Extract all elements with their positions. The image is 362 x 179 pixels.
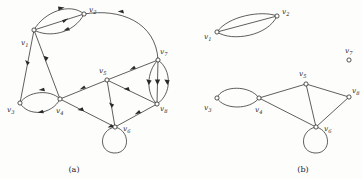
edge-v2-v7-long-arc (84, 13, 158, 60)
vertex-a-v5[interactable] (105, 78, 109, 82)
edge-v2-v1-straight (34, 14, 84, 30)
vertex-a-v1[interactable] (32, 28, 36, 32)
vertex-a-v3[interactable] (18, 101, 22, 105)
edge-v4-v6 (60, 99, 115, 127)
vertex-b-v5[interactable] (304, 82, 308, 86)
vertex-label-b-v1: v1 (204, 32, 212, 42)
arrowhead-v1-v2-arc-down (64, 27, 70, 31)
vertex-label-b-v4: v4 (255, 105, 263, 115)
arrowhead-v5-v6 (109, 103, 114, 108)
edge-b-v3-v4-arc-down (217, 98, 259, 107)
edge-v6-v8 (115, 104, 157, 127)
arrowhead-v1-v4 (44, 56, 49, 62)
vertex-label-a-v5: v5 (99, 66, 107, 76)
vertex-label-b-v5: v5 (299, 69, 307, 79)
edge-v3-v4-arc-down (20, 99, 60, 112)
vertex-b-v3[interactable] (215, 96, 219, 100)
arrowhead-v6-v8 (135, 110, 141, 114)
vertex-label-a-v1: v1 (21, 38, 29, 48)
figure-root: v1 v2 v3 v4 v5 v6 v7 v8 (0, 0, 362, 179)
vertex-label-a-v3: v3 (7, 105, 15, 115)
panel-b-graph: v1 v2 v3 v4 v5 v6 v7 v8 (204, 7, 360, 153)
graph-figure-canvas: v1 v2 v3 v4 v5 v6 v7 v8 (0, 0, 362, 179)
arrowhead-v7-v8-arc-left (146, 79, 151, 85)
edge-b-v5-v8 (306, 84, 349, 97)
edge-v5-v7 (107, 60, 158, 80)
vertex-a-v6[interactable] (113, 125, 117, 129)
vertex-b-v7-isolated[interactable] (347, 58, 351, 62)
vertex-b-v2[interactable] (275, 14, 279, 18)
edge-b-v4-v5 (259, 84, 306, 98)
caption-panel-a: (a) (68, 165, 79, 174)
vertex-label-b-v7: v7 (345, 46, 353, 56)
vertex-b-v4[interactable] (257, 96, 261, 100)
vertex-label-a-v2: v2 (89, 5, 97, 15)
vertex-label-a-v8: v8 (160, 104, 168, 114)
edge-b-v5-v6 (306, 84, 316, 127)
edge-v1-v2-arc-down (34, 14, 84, 34)
vertex-label-b-v2: v2 (282, 7, 290, 17)
vertex-label-b-v6: v6 (324, 124, 332, 134)
vertex-label-b-v3: v3 (204, 103, 212, 113)
arrowhead-v2-v1-straight (62, 18, 68, 23)
edge-b-v3-v4-arc-up (217, 88, 259, 98)
arrowhead-v3-v4-arc-down (38, 110, 44, 114)
panel-a-graph: v1 v2 v3 v4 v5 v6 v7 v8 (7, 5, 170, 153)
edge-b-v6-v8 (316, 97, 349, 127)
vertex-label-a-v7: v7 (160, 47, 168, 57)
vertex-a-v4[interactable] (58, 97, 62, 101)
vertex-b-v6[interactable] (314, 125, 318, 129)
edge-v4-v5 (60, 80, 107, 99)
vertex-a-v8[interactable] (155, 102, 159, 106)
caption-panel-b: (b) (297, 165, 308, 174)
vertex-label-a-v6: v6 (123, 124, 131, 134)
vertex-b-v1[interactable] (215, 30, 219, 34)
edge-b-v1-v2-straight (217, 16, 277, 32)
arrowhead-v2-v7 (118, 10, 124, 14)
vertex-a-v7[interactable] (156, 58, 160, 62)
edge-v2-v1-arc-up (34, 9, 84, 30)
edge-b-v4-v6 (259, 98, 316, 127)
vertex-a-v2[interactable] (82, 12, 86, 16)
arrowhead-v5-v8 (124, 87, 130, 91)
edge-v3-v4-arc-up (20, 93, 60, 103)
edge-b-v1-v2-arc-down (217, 16, 277, 37)
arrowhead-v3-v4-arc-up (39, 88, 45, 92)
arrowhead-v1-v3 (25, 60, 30, 66)
vertex-b-v8[interactable] (347, 95, 351, 99)
arrowhead-v7-v8-straight (155, 79, 160, 85)
vertex-label-b-v8: v8 (352, 86, 360, 96)
edge-v1-v4 (34, 30, 60, 99)
vertex-label-a-v4: v4 (56, 106, 64, 116)
arrowhead-v7-v8-arc-right (164, 80, 169, 85)
arrowhead-v4-v6 (78, 107, 85, 111)
